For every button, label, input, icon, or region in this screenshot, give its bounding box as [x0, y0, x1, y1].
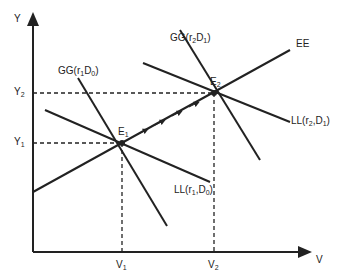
gg1-curve: [78, 78, 167, 226]
v2-tick-label: V2: [208, 260, 219, 271]
e2-point: [211, 90, 217, 96]
e1-label: E1: [118, 127, 129, 138]
e2-label: E2: [210, 77, 221, 88]
ll1-label: LL(r1,D0): [174, 185, 213, 196]
x-axis: [33, 246, 312, 258]
gg2-curve: [180, 30, 260, 160]
gg2-label: GG(r2D1): [170, 33, 211, 44]
y-axis-label: Y: [14, 14, 21, 24]
y1-tick-label: Y1: [14, 137, 25, 148]
y2-tick-label: Y2: [14, 87, 25, 98]
e1-point: [119, 140, 125, 146]
ee-label: EE: [296, 39, 309, 49]
diagram: Y V Y2 Y1 V1 V2 EE GG(r1D0) GG(r2D1) LL(…: [0, 0, 343, 275]
y-axis: [27, 12, 39, 252]
v1-tick-label: V1: [116, 260, 127, 271]
gg1-label: GG(r1D0): [58, 66, 99, 77]
x-axis-label: V: [316, 255, 323, 265]
ll2-label: LL(r2,D1): [291, 116, 330, 127]
